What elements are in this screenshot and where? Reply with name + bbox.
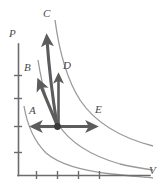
pv-diagram-canvas [0, 0, 164, 193]
process-label-c: C [43, 8, 50, 19]
x-axis-label: V [149, 165, 156, 176]
isotherm-curves [24, 20, 153, 178]
process-label-d: D [63, 60, 71, 71]
axes [18, 44, 150, 176]
process-label-b: B [24, 62, 31, 73]
process-label-e: E [95, 104, 102, 115]
y-axis-label: P [9, 28, 16, 39]
process-label-a: A [29, 105, 36, 116]
state-point-dot [54, 123, 61, 130]
pv-diagram-figure: A B C D E P V [0, 0, 164, 193]
process-arrows [36, 40, 92, 127]
